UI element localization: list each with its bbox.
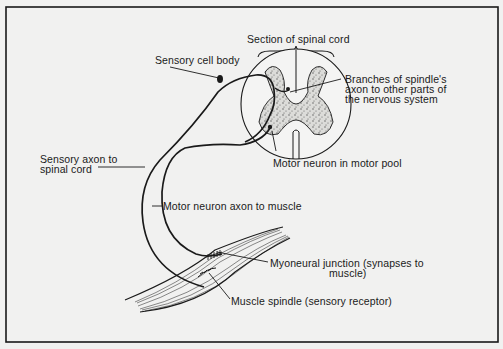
sensory-cell-body bbox=[217, 75, 223, 83]
label-section-of-spinal-cord: Section of spinal cord bbox=[247, 34, 347, 45]
label-motor-neuron-pool: Motor neuron in motor pool bbox=[273, 158, 402, 169]
motor-neuron-cell-body bbox=[268, 125, 272, 129]
motor-neuron bbox=[162, 128, 270, 256]
spinal-reflex-diagram: Section of spinal cord Sensory cell body… bbox=[0, 0, 503, 349]
spinal-cord-cross-section bbox=[241, 49, 351, 159]
label-motor-neuron-axon: Motor neuron axon to muscle bbox=[163, 201, 302, 212]
label-sensory-cell-body: Sensory cell body bbox=[155, 55, 240, 66]
label-sensory-axon-line2: spinal cord bbox=[40, 164, 92, 175]
label-myoneural-line2: muscle) bbox=[329, 268, 366, 279]
label-muscle-spindle: Muscle spindle (sensory receptor) bbox=[231, 296, 392, 307]
label-branches-line3: the nervous system bbox=[345, 94, 438, 105]
